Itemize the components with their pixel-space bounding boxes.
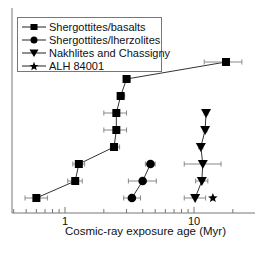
legend-item-nakhlites: Nakhlites and Chassigny [21,46,161,59]
square-marker [112,109,120,117]
square-marker [32,194,40,202]
square-marker [123,75,131,83]
circle-marker [146,160,155,169]
triangle-down-marker [200,126,210,135]
circle-marker-icon [21,35,47,45]
legend-label: ALH 84001 [49,60,104,72]
legend: Shergottites/basalts Shergottites/lherzo… [17,17,162,72]
square-marker [222,58,230,66]
circle-marker [138,177,147,186]
legend-item-lherzolites: Shergottites/lherzolites [21,33,161,46]
legend-label: Shergottites/basalts [49,21,146,33]
triangle-down-marker [196,143,206,152]
square-marker [75,160,83,168]
square-marker [71,177,79,185]
star-marker [208,193,218,202]
square-marker [112,126,120,134]
triangle-down-marker-icon [21,48,47,58]
square-marker [110,143,118,151]
star-marker-icon [21,61,47,71]
legend-item-alh84001: ALH 84001 [21,59,161,72]
x-axis-label: Cosmic-ray exposure age (Myr) [0,225,269,237]
series-line [195,113,206,198]
square-marker-icon [21,22,47,32]
square-marker [117,92,125,100]
legend-item-basalts: Shergottites/basalts [21,20,161,33]
legend-label: Nakhlites and Chassigny [49,47,170,59]
triangle-down-marker [201,109,211,118]
circle-marker [128,194,137,203]
legend-label: Shergottites/lherzolites [49,34,160,46]
